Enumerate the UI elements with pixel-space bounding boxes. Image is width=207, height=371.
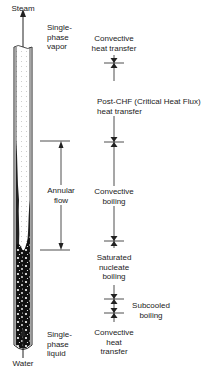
- label-line: Annular: [43, 186, 79, 196]
- label-line: Subcooled: [129, 301, 173, 311]
- label-line: Convective: [88, 187, 140, 197]
- label-line: transfer: [88, 347, 140, 357]
- single-phase-vapor-label: Single- phase vapor: [47, 23, 72, 52]
- label-line: nucleate: [88, 263, 140, 273]
- label-line: Convective: [88, 34, 140, 44]
- regime-convective-heat-transfer-liquid: Convective heat transfer: [88, 328, 140, 357]
- label-line: phase: [47, 33, 72, 43]
- heated-tube: [14, 46, 32, 350]
- regime-convective-boiling: Convective boiling: [88, 187, 140, 206]
- label-line: Single-: [47, 330, 72, 340]
- label-line: heat transfer: [97, 107, 201, 117]
- single-phase-liquid-label: Single- phase liquid: [47, 330, 72, 359]
- regime-subcooled-boiling: Subcooled boiling: [129, 301, 173, 320]
- label-line: heat transfer: [88, 44, 140, 54]
- label-line: heat: [88, 338, 140, 348]
- label-line: boiling: [129, 311, 173, 321]
- label-line: boiling: [88, 197, 140, 207]
- regime-saturated-nucleate-boiling: Saturated nucleate boiling: [88, 253, 140, 282]
- regime-convective-heat-transfer-vapor: Convective heat transfer: [88, 34, 140, 53]
- label-line: vapor: [47, 42, 72, 52]
- diagram-canvas: [0, 0, 207, 371]
- label-line: liquid: [47, 349, 72, 359]
- regime-post-chf: Post-CHF (Critical Heat Flux) heat trans…: [97, 97, 201, 116]
- label-line: Single-: [47, 23, 72, 33]
- label-line: Convective: [88, 328, 140, 338]
- label-line: phase: [47, 340, 72, 350]
- annular-flow-label: Annular flow: [43, 186, 79, 205]
- label-line: Saturated: [88, 253, 140, 263]
- label-line: flow: [43, 196, 79, 206]
- label-line: boiling: [88, 272, 140, 282]
- water-label: Water: [8, 359, 38, 369]
- label-line: Post-CHF (Critical Heat Flux): [97, 97, 201, 107]
- steam-label: Steam: [10, 4, 36, 14]
- steam-outlet-arrow-icon: [20, 9, 26, 47]
